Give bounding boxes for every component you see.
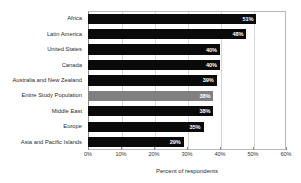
bar-value-label: 39% <box>203 77 214 83</box>
category-label: Middle East <box>0 104 85 119</box>
bar-value-label: 40% <box>206 62 217 68</box>
category-label: Australia and New Zealand <box>0 73 85 88</box>
x-tick-label: 60% <box>280 150 291 158</box>
x-axis-title: Percent of respondents <box>88 167 286 175</box>
x-axis-ticks: 0%10%20%30%40%50%60% <box>88 150 286 162</box>
bar-row: 39% <box>88 73 286 88</box>
chart-title <box>70 0 240 4</box>
bar-value-label: 35% <box>190 124 201 130</box>
category-label: Entire Study Population <box>0 88 85 103</box>
category-label: Africa <box>0 11 85 26</box>
bar: 40% <box>88 60 220 70</box>
bar-row: 38% <box>88 104 286 119</box>
category-label: Asia and Pacific Islands <box>0 135 85 150</box>
bar-row: 38% <box>88 88 286 103</box>
x-tick-label: 50% <box>247 150 258 158</box>
x-tick-label: 30% <box>181 150 192 158</box>
bar-value-label: 48% <box>232 31 243 37</box>
bar: 51% <box>88 14 256 24</box>
x-tick-mark <box>253 147 254 150</box>
category-label: Europe <box>0 119 85 134</box>
bar-row: 48% <box>88 26 286 41</box>
bar-value-label: 40% <box>206 47 217 53</box>
category-label: United States <box>0 42 85 57</box>
x-tick-label: 0% <box>84 150 92 158</box>
x-tick-mark <box>286 147 287 150</box>
x-tick-label: 10% <box>115 150 126 158</box>
x-tick-label: 40% <box>214 150 225 158</box>
bar-row: 40% <box>88 57 286 72</box>
bar-value-label: 38% <box>199 93 210 99</box>
x-tick-mark <box>154 147 155 150</box>
x-tick-mark <box>88 147 89 150</box>
bars-layer: 51%48%40%40%39%38%38%35%29% <box>88 11 286 150</box>
bar: 29% <box>88 137 184 147</box>
bar: 40% <box>88 44 220 54</box>
category-axis-labels: AfricaLatin AmericaUnited StatesCanadaAu… <box>0 11 85 150</box>
category-label: Latin America <box>0 26 85 41</box>
bar-row: 35% <box>88 119 286 134</box>
bar: 38% <box>88 106 213 116</box>
bar-row: 40% <box>88 42 286 57</box>
x-tick-mark <box>220 147 221 150</box>
x-tick-label: 20% <box>148 150 159 158</box>
bar-value-label: 29% <box>170 139 181 145</box>
bar-value-label: 38% <box>199 108 210 114</box>
bar: 35% <box>88 122 204 132</box>
category-label: Canada <box>0 57 85 72</box>
bar: 48% <box>88 29 246 39</box>
x-tick-mark <box>187 147 188 150</box>
bar-row: 51% <box>88 11 286 26</box>
bar-chart: AfricaLatin AmericaUnited StatesCanadaAu… <box>0 0 301 183</box>
bar: 39% <box>88 75 217 85</box>
bar-value-label: 51% <box>242 16 253 22</box>
x-tick-mark <box>121 147 122 150</box>
bar: 38% <box>88 91 213 101</box>
